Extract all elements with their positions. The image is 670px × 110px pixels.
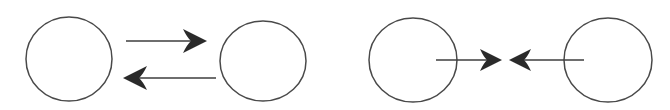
node-circle-left-b — [220, 21, 306, 101]
panel-separated-pair — [26, 17, 306, 101]
diagram-svg — [0, 0, 670, 110]
diagram-canvas — [0, 0, 670, 110]
node-circle-left-a — [26, 17, 112, 101]
panel-converging-pair — [369, 18, 652, 102]
